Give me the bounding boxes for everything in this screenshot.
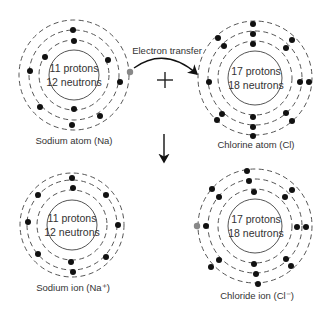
transferred-electron [127, 69, 133, 75]
sodium-ion-nucleus: 11 protons 12 neutrons [44, 211, 99, 239]
chloride-ion-label: Chloride ion (Cl⁻) [220, 290, 294, 301]
chloride-ion-nucleus: 17 protons 18 neutrons [228, 212, 283, 240]
sodium-ion-label: Sodium ion (Na⁺) [36, 282, 110, 293]
transfer-arrow [134, 58, 197, 74]
sodium-atom-label: Sodium atom (Na) [35, 135, 112, 146]
proton-count: 17 protons [228, 64, 283, 78]
neutron-count: 12 neutrons [44, 225, 99, 239]
electron-transfer-label: Electron transfer [132, 45, 202, 56]
gained-electron [194, 223, 200, 229]
plus-icon [157, 72, 173, 88]
sodium-atom-nucleus: 11 protons 12 neutrons [46, 61, 101, 89]
neutron-count: 12 neutrons [46, 75, 101, 89]
neutron-count: 18 neutrons [228, 226, 283, 240]
proton-count: 11 protons [44, 211, 99, 225]
chlorine-atom-label: Chlorine atom (Cl) [217, 139, 294, 150]
proton-count: 11 protons [46, 61, 101, 75]
proton-count: 17 protons [228, 212, 283, 226]
neutron-count: 18 neutrons [228, 78, 283, 92]
chlorine-atom-nucleus: 17 protons 18 neutrons [228, 64, 283, 92]
